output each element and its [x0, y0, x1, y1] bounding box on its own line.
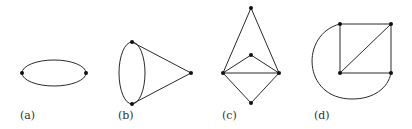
vertex: [249, 101, 253, 105]
graph-d: [312, 22, 393, 99]
graph-c: [221, 6, 281, 105]
panel-label-a: (a): [20, 109, 35, 122]
vertex: [249, 53, 253, 57]
vertex: [277, 71, 281, 75]
edge: [340, 24, 391, 73]
vertex: [338, 22, 342, 26]
edge: [251, 73, 279, 103]
multi-edge-ellipse: [22, 60, 86, 86]
panel-label-d: (d): [314, 109, 330, 122]
panel-label-c: (c): [222, 109, 237, 122]
vertex: [189, 71, 193, 75]
graph-a: [20, 60, 88, 86]
vertex: [84, 71, 88, 75]
edge: [132, 42, 191, 73]
multi-edge-ellipse: [119, 42, 145, 104]
vertex: [130, 40, 134, 44]
edge: [223, 73, 251, 103]
edge: [132, 73, 191, 104]
vertex: [130, 102, 134, 106]
vertex: [389, 71, 393, 75]
vertex: [221, 71, 225, 75]
vertex: [20, 71, 24, 75]
panel-label-b: (b): [118, 109, 134, 122]
edge: [251, 8, 279, 73]
edge: [223, 8, 251, 73]
vertex: [249, 6, 253, 10]
graph-b: [119, 40, 193, 106]
vertex: [389, 22, 393, 26]
graph-figure: [0, 0, 412, 129]
vertex: [338, 71, 342, 75]
